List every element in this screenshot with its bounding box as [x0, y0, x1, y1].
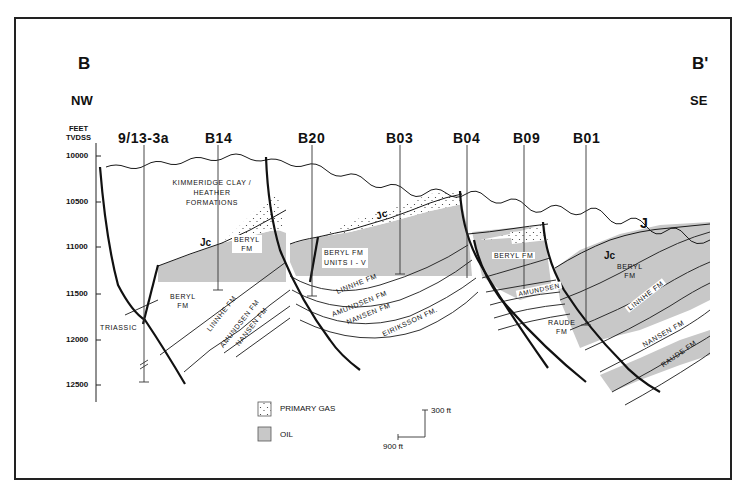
j-label: J — [640, 215, 648, 231]
kimmeridge-line2: HEATHER — [137, 188, 287, 198]
depth-tick: 12000 — [66, 335, 88, 344]
triassic-label: TRIASSIC — [100, 324, 137, 331]
well-label-b04: B04 — [453, 130, 480, 146]
raude-line1: RAUDE — [548, 318, 576, 327]
jc-label-b01: Jc — [604, 250, 615, 261]
beryl-label-b09: BERYL FM — [492, 252, 535, 259]
section-start-label: B — [78, 54, 90, 74]
beryl-text: BERYL — [232, 235, 262, 244]
beryl-text: BERYL — [170, 292, 196, 301]
depth-tick: 12500 — [66, 380, 88, 389]
well-label-b09: B09 — [513, 130, 540, 146]
beryl-text: BERYL — [617, 262, 643, 271]
fm-text: FM — [232, 244, 262, 253]
axis-title-line2: TVDSS — [66, 133, 91, 142]
beryl-label-b14-lower: BERYL FM — [170, 292, 196, 310]
section-end-label: B' — [692, 54, 708, 74]
axis-title-line1: FEET — [66, 124, 91, 133]
raude-line2: FM — [548, 327, 576, 336]
jc-label-b14: Jc — [200, 237, 211, 248]
kimmeridge-line1: KIMMERIDGE CLAY / — [137, 178, 287, 188]
kimmeridge-line3: FORMATIONS — [137, 198, 287, 208]
fm-text: FM — [170, 301, 196, 310]
cross-section-drawing — [0, 0, 746, 499]
well-label-b01: B01 — [573, 130, 600, 146]
raude-label-b09: RAUDE FM — [548, 318, 576, 336]
legend-oil-label: OIL — [280, 430, 293, 439]
depth-tick: 11000 — [66, 242, 88, 251]
legend-oil-swatch — [258, 427, 271, 441]
axis-title: FEET TVDSS — [66, 124, 91, 142]
well-label-b20: B20 — [298, 130, 325, 146]
beryl-units-line1: BERYL FM — [322, 248, 368, 258]
well-label-b03: B03 — [386, 130, 413, 146]
beryl-units-label: BERYL FM UNITS I - V — [322, 248, 368, 268]
beryl-label-b01: BERYL FM — [617, 262, 643, 280]
depth-tick: 10000 — [66, 151, 88, 160]
well-label-b14: B14 — [205, 130, 232, 146]
legend-gas-label: PRIMARY GAS — [280, 404, 335, 413]
beryl-units-line2: UNITS I - V — [322, 258, 368, 268]
scale-vertical-label: 300 ft — [431, 406, 451, 415]
beryl-label-b14-upper: BERYL FM — [232, 235, 262, 253]
kimmeridge-label: KIMMERIDGE CLAY / HEATHER FORMATIONS — [137, 178, 287, 208]
well-label-9-13-3a: 9/13-3a — [118, 130, 169, 146]
legend-gas-swatch — [258, 402, 271, 416]
scale-bar — [398, 410, 428, 440]
depth-tick: 10500 — [66, 197, 88, 206]
direction-se: SE — [690, 93, 707, 108]
fm-text: FM — [617, 271, 643, 280]
depth-tick: 11500 — [66, 289, 88, 298]
scale-horizontal-label: 900 ft — [383, 442, 403, 451]
direction-nw: NW — [71, 93, 93, 108]
